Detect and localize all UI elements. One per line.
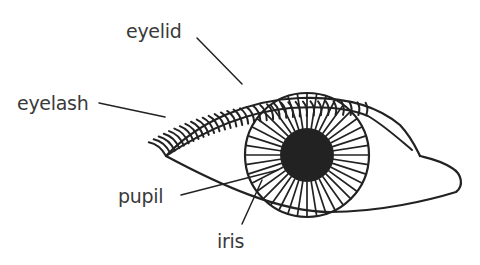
eye-diagram: eyelid eyelash pupil iris [0, 0, 480, 265]
iris-label: iris [217, 232, 244, 251]
pupil-disc [280, 128, 334, 182]
eyelid-leader-line [197, 38, 242, 84]
eyelash-leader-line [99, 103, 165, 117]
eye-illustration [0, 0, 480, 265]
pupil-label: pupil [118, 187, 163, 206]
eyelash-label: eyelash [17, 94, 88, 113]
iris-leader-line [242, 180, 262, 224]
eyelid-label: eyelid [126, 22, 181, 41]
pupil-leader-line [181, 170, 278, 195]
